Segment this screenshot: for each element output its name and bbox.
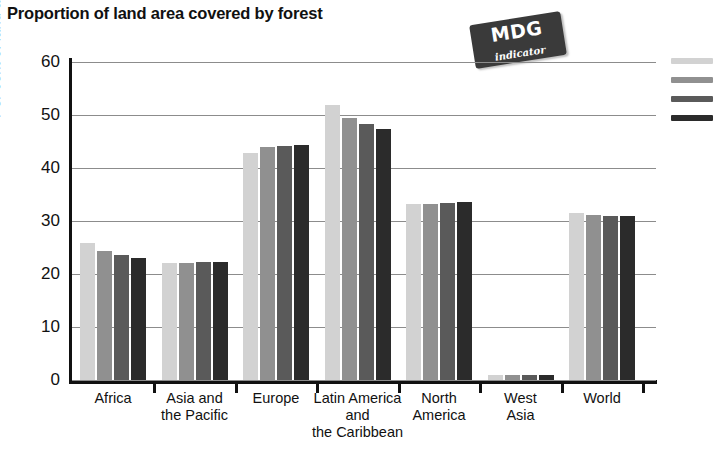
bar (505, 375, 520, 380)
bar (522, 375, 537, 380)
x-category-label: NorthAmerica (392, 390, 486, 424)
y-tick-label-40: 40 (18, 159, 60, 176)
bar (196, 262, 211, 380)
bar (457, 202, 472, 380)
y-tick-label-10: 10 (18, 318, 60, 335)
bar (325, 105, 340, 380)
bar-group-world (569, 62, 635, 380)
x-category-label: World (555, 390, 649, 407)
bar (376, 129, 391, 380)
bar (213, 262, 228, 380)
bar (488, 375, 503, 380)
bar (97, 251, 112, 380)
bar-group-europe (243, 62, 309, 380)
bar (260, 147, 275, 380)
bar (114, 255, 129, 380)
chart-legend (671, 58, 713, 134)
bar (131, 258, 146, 380)
legend-swatch-4[interactable] (671, 115, 713, 121)
x-category-label: Africa (66, 390, 160, 407)
bar (294, 145, 309, 380)
bar-group-west-asia (488, 62, 554, 380)
bar (80, 243, 95, 380)
bar (162, 263, 177, 380)
y-tick-label-0: 0 (18, 371, 60, 388)
x-category-label: Europe (229, 390, 323, 407)
bar (539, 375, 554, 380)
mdg-indicator-badge: MDG indicator (469, 11, 567, 69)
gridline-0 (72, 380, 656, 381)
x-category-label: Asia andthe Pacific (148, 390, 242, 424)
x-category-label: WestAsia (474, 390, 568, 424)
bar (586, 215, 601, 380)
bar (603, 216, 618, 380)
bar (342, 118, 357, 380)
bar-group-north-america (406, 62, 472, 380)
y-axis-title: Per cent of land area (0, 0, 3, 118)
bar (406, 204, 421, 380)
y-tick-label-60: 60 (18, 53, 60, 70)
bar (179, 263, 194, 380)
legend-swatch-2[interactable] (671, 77, 713, 83)
y-tick-label-20: 20 (18, 265, 60, 282)
bar (569, 213, 584, 380)
bar-group-africa (80, 62, 146, 380)
bar-group-asia-and-the-pacific (162, 62, 228, 380)
bar (423, 204, 438, 380)
chart-title: Proportion of land area covered by fores… (7, 4, 322, 23)
bar (620, 216, 635, 380)
legend-swatch-1[interactable] (671, 58, 713, 64)
y-tick-label-30: 30 (18, 212, 60, 229)
y-tick-label-50: 50 (18, 106, 60, 123)
legend-swatch-3[interactable] (671, 96, 713, 102)
bar (243, 153, 258, 380)
bar (359, 124, 374, 380)
x-category-label: Latin Americaandthe Caribbean (311, 390, 405, 441)
bar (277, 146, 292, 380)
bar (440, 203, 455, 380)
plot-area: 6050403020100 (72, 62, 656, 380)
bar-group-latin-america-and-the-ca (325, 62, 391, 380)
